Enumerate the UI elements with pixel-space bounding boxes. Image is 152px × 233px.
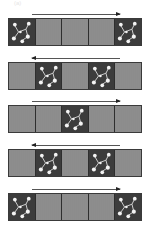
molecule-icon: [9, 194, 35, 220]
molecule-icon: [89, 63, 115, 89]
light-cell: [9, 63, 36, 89]
molecule-icon: [36, 150, 62, 176]
light-cell: [36, 194, 63, 220]
molecule-icon: [9, 19, 35, 45]
light-cell: [115, 106, 141, 132]
molecule-icon: [115, 194, 141, 220]
dark-cell: [115, 194, 141, 220]
arrowhead-icon: [31, 56, 36, 60]
strip: [8, 105, 142, 133]
figure-label: (a): [14, 0, 21, 6]
dark-cell: [89, 150, 116, 176]
arrow-left-icon: [32, 58, 120, 59]
strip: [8, 193, 142, 221]
arrow-left-icon: [32, 145, 120, 146]
light-cell: [89, 19, 116, 45]
dark-cell: [9, 194, 36, 220]
dark-cell: [36, 150, 63, 176]
arrow-right-icon: [32, 189, 120, 190]
light-cell: [36, 19, 63, 45]
arrow-right-icon: [32, 101, 120, 102]
light-cell: [62, 19, 89, 45]
molecule-icon: [36, 63, 62, 89]
dark-cell: [9, 19, 36, 45]
light-cell: [9, 106, 36, 132]
arrowhead-icon: [116, 99, 121, 103]
arrow-right-icon: [32, 14, 120, 15]
strip: [8, 18, 142, 46]
light-cell: [9, 150, 36, 176]
dark-cell: [115, 19, 141, 45]
light-cell: [62, 194, 89, 220]
strip: [8, 62, 142, 90]
dark-cell: [62, 106, 89, 132]
dark-cell: [36, 63, 63, 89]
light-cell: [36, 106, 63, 132]
light-cell: [62, 63, 89, 89]
dark-cell: [89, 63, 116, 89]
molecule-icon: [89, 150, 115, 176]
molecule-icon: [62, 106, 88, 132]
light-cell: [115, 63, 141, 89]
light-cell: [62, 150, 89, 176]
molecule-icon: [115, 19, 141, 45]
arrowhead-icon: [116, 12, 121, 16]
arrowhead-icon: [31, 143, 36, 147]
light-cell: [89, 106, 116, 132]
strip: [8, 149, 142, 177]
arrowhead-icon: [116, 187, 121, 191]
light-cell: [89, 194, 116, 220]
light-cell: [115, 150, 141, 176]
